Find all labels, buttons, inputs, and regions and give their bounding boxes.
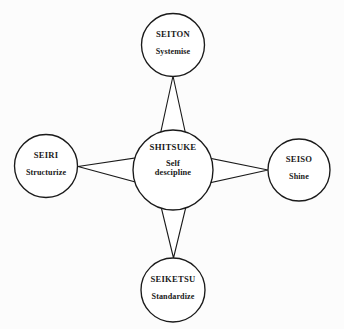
connector-center-to-seiketsu — [161, 207, 186, 259]
node-circle-seiton — [142, 14, 205, 77]
connector-center-to-seiton — [161, 76, 186, 134]
node-circle-seiketsu — [141, 258, 205, 322]
connector-center-to-seiri — [78, 158, 136, 182]
node-circle-seiri — [15, 135, 78, 198]
node-circle-seiso — [268, 139, 330, 201]
diagram-canvas — [0, 0, 344, 329]
connector-center-to-seiso — [211, 159, 268, 183]
5s-diagram: SEITON Systemise SEIRI Structurize SEISO… — [0, 0, 344, 329]
node-circle-shitsuke — [133, 130, 213, 210]
